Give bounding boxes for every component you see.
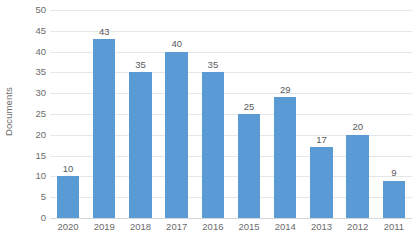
- x-axis-tick: 2013: [303, 222, 339, 232]
- axis-baseline: [50, 218, 412, 219]
- bar-group[interactable]: 29: [267, 10, 303, 218]
- x-axis-tick-labels: 2020201920182017201620152014201320122011: [50, 222, 412, 242]
- bar-group[interactable]: 9: [376, 10, 412, 218]
- x-axis-tick: 2016: [195, 222, 231, 232]
- bar[interactable]: [57, 176, 79, 218]
- y-axis-tick: 15: [18, 151, 46, 161]
- y-axis-title-label: Documents: [3, 87, 14, 136]
- bar[interactable]: [129, 72, 151, 218]
- x-axis-tick: 2018: [122, 222, 158, 232]
- bar-group[interactable]: 40: [159, 10, 195, 218]
- y-axis-tick: 35: [18, 68, 46, 78]
- y-axis-tick-labels: 05101520253035404550: [18, 0, 46, 222]
- x-axis-tick: 2020: [50, 222, 86, 232]
- y-axis-tick: 30: [18, 88, 46, 98]
- bar-group[interactable]: 35: [195, 10, 231, 218]
- bar-value-label: 20: [340, 122, 376, 132]
- bar-chart: Documents 05101520253035404550 104335403…: [0, 0, 418, 245]
- y-axis-title: Documents: [0, 0, 16, 222]
- bar-group[interactable]: 10: [50, 10, 86, 218]
- bar-value-label: 40: [159, 39, 195, 49]
- y-axis-tick: 20: [18, 130, 46, 140]
- bar-value-label: 17: [303, 135, 339, 145]
- bar-value-label: 9: [376, 168, 412, 178]
- x-axis-tick: 2017: [159, 222, 195, 232]
- y-axis-tick: 45: [18, 26, 46, 36]
- y-axis-tick: 0: [18, 213, 46, 223]
- bar[interactable]: [238, 114, 260, 218]
- x-axis-tick: 2011: [376, 222, 412, 232]
- x-axis-tick: 2019: [86, 222, 122, 232]
- bar[interactable]: [383, 181, 405, 218]
- bar-value-label: 35: [195, 60, 231, 70]
- y-axis-tick: 5: [18, 192, 46, 202]
- bar[interactable]: [274, 97, 296, 218]
- bar-value-label: 35: [122, 60, 158, 70]
- y-axis-tick: 25: [18, 109, 46, 119]
- y-axis-tick: 50: [18, 5, 46, 15]
- bar-group[interactable]: 17: [303, 10, 339, 218]
- bar[interactable]: [93, 39, 115, 218]
- bar-group[interactable]: 25: [231, 10, 267, 218]
- bar[interactable]: [202, 72, 224, 218]
- bar-value-label: 29: [267, 85, 303, 95]
- bars-layer: 1043354035252917209: [50, 10, 412, 218]
- x-axis-tick: 2012: [340, 222, 376, 232]
- y-axis-tick: 10: [18, 172, 46, 182]
- bar[interactable]: [310, 147, 332, 218]
- y-axis-tick: 40: [18, 47, 46, 57]
- bar-group[interactable]: 20: [340, 10, 376, 218]
- x-axis-tick: 2014: [267, 222, 303, 232]
- bar-value-label: 43: [86, 27, 122, 37]
- bar-group[interactable]: 43: [86, 10, 122, 218]
- bar-value-label: 10: [50, 164, 86, 174]
- bar-value-label: 25: [231, 102, 267, 112]
- x-axis-tick: 2015: [231, 222, 267, 232]
- bar[interactable]: [165, 52, 187, 218]
- bar[interactable]: [346, 135, 368, 218]
- bar-group[interactable]: 35: [122, 10, 158, 218]
